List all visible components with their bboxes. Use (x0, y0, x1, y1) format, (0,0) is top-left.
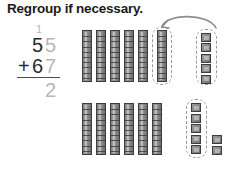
ten-rod-segment-line (125, 114, 133, 115)
ten-rod-segment-line (111, 130, 119, 131)
ten-rod-segment-line (125, 62, 133, 63)
ten-rod-segment-line (153, 130, 161, 131)
ten-rod-segment-line (97, 41, 105, 42)
ten-rod-segment-line (125, 47, 133, 48)
ten-rod-segment-line (139, 140, 147, 141)
ten-rod-segment-line (158, 57, 166, 58)
ten-rod-segment-line (139, 125, 147, 126)
ten-rod-segment-line (97, 109, 105, 110)
ten-rod-segment-line (83, 125, 91, 126)
ten-rod-segment-line (125, 109, 133, 110)
unit-cube-highlight (204, 46, 209, 50)
ten-rod-segment-line (83, 114, 91, 115)
operator-plus: + (18, 56, 30, 76)
ten-rod (124, 30, 134, 82)
ten-rod-segment-line (83, 41, 91, 42)
unit-cube (191, 145, 201, 154)
ten-rod-segment-line (153, 140, 161, 141)
ten-rod-segment-line (97, 73, 105, 74)
ten-rod-segment-line (139, 114, 147, 115)
ten-rod-segment-line (83, 146, 91, 147)
ten-rod-segment-line (83, 140, 91, 141)
ten-rod-segment-line (111, 140, 119, 141)
ten-rod-segment-line (139, 67, 147, 68)
unit-cube (191, 114, 201, 123)
ten-rod (82, 30, 92, 82)
regroup-arrow (150, 11, 226, 37)
ten-rod-segment-line (125, 151, 133, 152)
unit-cube (201, 54, 211, 63)
ten-rod-segment-line (158, 78, 166, 79)
ten-rod-segment-line (125, 36, 133, 37)
ten-rod-segment-line (125, 52, 133, 53)
ten-rod-segment-line (97, 67, 105, 68)
ten-rod (96, 30, 106, 82)
addend1-tens-digit: 5 (32, 35, 43, 55)
ten-rod (157, 30, 167, 82)
ten-rod (82, 103, 92, 155)
ten-rod-segment-line (139, 120, 147, 121)
ten-rod-segment-line (111, 135, 119, 136)
ten-rod (110, 103, 120, 155)
unit-cube-highlight (204, 77, 209, 81)
unit-cube-highlight (194, 127, 199, 131)
ten-rod-segment-line (139, 146, 147, 147)
ten-rod-segment-line (139, 36, 147, 37)
ten-rod-segment-line (125, 135, 133, 136)
unit-cube (191, 135, 201, 144)
ten-rod-segment-line (125, 78, 133, 79)
ten-rod-segment-line (83, 151, 91, 152)
ten-rod-segment-line (97, 135, 105, 136)
unit-cube (212, 135, 222, 144)
ten-rod (138, 103, 148, 155)
ten-rod (138, 30, 148, 82)
ten-rod-segment-line (83, 73, 91, 74)
ten-rod-segment-line (158, 67, 166, 68)
ten-rod-segment-line (97, 62, 105, 63)
ten-rod-segment-line (153, 125, 161, 126)
ten-rod-segment-line (139, 57, 147, 58)
unit-cube-highlight (194, 116, 199, 120)
unit-cube-highlight (215, 149, 220, 153)
ten-rod-segment-line (83, 36, 91, 37)
ten-rod-segment-line (111, 62, 119, 63)
unit-cube (201, 64, 211, 73)
addition-problem: 1 5 5 + 6 7 2 (18, 24, 76, 102)
ten-rod-segment-line (97, 114, 105, 115)
addend2-tens-digit: 6 (32, 56, 43, 76)
ten-rod-segment-line (139, 135, 147, 136)
unit-cube-highlight (204, 56, 209, 60)
ten-rod-segment-line (97, 130, 105, 131)
ten-rod-segment-line (139, 130, 147, 131)
ten-rod-segment-line (153, 114, 161, 115)
ten-rod-segment-line (125, 140, 133, 141)
ten-rod-segment-line (111, 78, 119, 79)
ten-rod-segment-line (97, 52, 105, 53)
ten-rod-segment-line (83, 52, 91, 53)
ten-rod-segment-line (83, 135, 91, 136)
addend1-ones-digit: 5 (45, 35, 56, 55)
ten-rod-segment-line (139, 73, 147, 74)
ten-rod (152, 103, 162, 155)
ten-rod (124, 103, 134, 155)
ten-rod-segment-line (83, 67, 91, 68)
ten-rod-segment-line (139, 78, 147, 79)
ten-rod-segment-line (158, 52, 166, 53)
ten-rod-segment-line (97, 120, 105, 121)
ten-rod-segment-line (97, 78, 105, 79)
ten-rod-segment-line (97, 125, 105, 126)
ten-rod-segment-line (153, 109, 161, 110)
ten-rod-segment-line (97, 151, 105, 152)
ten-rod-segment-line (111, 125, 119, 126)
worksheet-page: Regroup if necessary. 1 5 5 + 6 7 2 (0, 0, 240, 174)
ten-rod-segment-line (111, 67, 119, 68)
ten-rod-segment-line (111, 73, 119, 74)
ten-rod-segment-line (125, 146, 133, 147)
ten-rod (110, 30, 120, 82)
ten-rod-segment-line (111, 47, 119, 48)
ten-rod-segment-line (83, 130, 91, 131)
ten-rod-segment-line (111, 52, 119, 53)
ten-rod-segment-line (111, 109, 119, 110)
ten-rod-segment-line (125, 130, 133, 131)
ten-rod-segment-line (153, 151, 161, 152)
